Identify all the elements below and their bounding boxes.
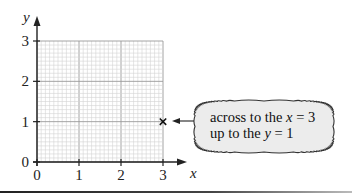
grid <box>37 41 163 162</box>
ticks: 01230123 <box>22 33 167 183</box>
bubble-line-2-prefix: up to the <box>210 125 264 141</box>
bubble-line-2: up to the y = 1 <box>210 125 294 141</box>
axes <box>33 16 187 166</box>
x-axis-label: x <box>189 165 197 181</box>
y-tick-label: 2 <box>22 73 30 89</box>
y-tick-label: 0 <box>22 154 30 170</box>
x-axis-arrow-icon <box>177 159 187 166</box>
x-tick-label: 1 <box>75 167 83 183</box>
x-tick-label: 3 <box>159 167 167 183</box>
y-tick-label: 3 <box>22 33 30 49</box>
bubble-line-1: across to the x = 3 <box>210 109 315 125</box>
bubble-line-1-suffix: = 3 <box>293 109 316 125</box>
y-tick-label: 1 <box>22 114 30 130</box>
bubble-line-1-prefix: across to the <box>210 109 286 125</box>
x-tick-label: 2 <box>117 167 125 183</box>
y-axis-arrow-icon <box>34 16 41 26</box>
arrow-left-icon <box>172 118 180 124</box>
x-tick-label: 0 <box>33 167 41 183</box>
coordinate-diagram: 01230123 y x across to the x = 3 up to t… <box>0 0 352 193</box>
annotation-arrow <box>172 118 195 124</box>
y-axis-label: y <box>21 9 30 25</box>
bubble-line-2-suffix: = 1 <box>271 125 294 141</box>
bottom-rule <box>0 191 352 193</box>
